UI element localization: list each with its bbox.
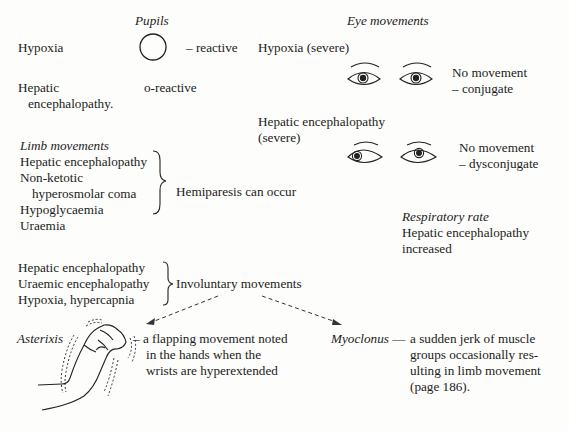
- pupils-label-large: – reactive: [186, 40, 238, 55]
- pupils-condition-hepatic-1: Hepatic: [18, 80, 59, 95]
- limb-condition: hyperosmolar coma: [32, 186, 136, 201]
- pupils-label-small: o-reactive: [144, 80, 197, 95]
- involuntary-brace: [163, 262, 173, 305]
- respiratory-line-2: increased: [402, 241, 452, 256]
- asterixis-desc: wrists are hyperextended: [146, 363, 278, 378]
- eye-condition-hepatic-2: (severe): [258, 130, 300, 145]
- asterixis-desc: in the hands when the: [146, 347, 261, 362]
- eye-condition-hepatic-1: Hepatic encephalopathy: [258, 114, 385, 129]
- eye-label-conjugate-1: No movement: [452, 65, 527, 80]
- asterixis-desc: – a flapping movement noted: [133, 331, 288, 346]
- large-pupil-icon: [140, 34, 166, 60]
- limb-outcome: Hemiparesis can occur: [176, 184, 296, 199]
- limb-condition: Uraemia: [20, 218, 65, 233]
- myoclonus-desc: (page 186).: [410, 379, 470, 394]
- myoclonus-term: Myoclonus: [331, 331, 389, 346]
- pupils-condition-hypoxia: Hypoxia: [18, 40, 63, 55]
- eye-label-conjugate-2: – conjugate: [452, 81, 513, 96]
- eye-label-dysconjugate-1: No movement: [459, 140, 534, 155]
- eye-condition-hypoxia: Hypoxia (severe): [258, 40, 349, 55]
- involuntary-condition: Hepatic encephalopathy: [18, 260, 145, 275]
- eyes-dysconjugate-icon: [348, 142, 436, 163]
- limb-condition: Hepatic encephalopathy: [20, 154, 147, 169]
- myoclonus-desc: ulting in limb movement: [410, 363, 541, 378]
- limb-condition: Non-ketotic: [20, 170, 83, 185]
- pupils-heading: Pupils: [135, 13, 169, 28]
- limb-condition: Hypoglycaemia: [20, 202, 104, 217]
- arrow-to-myoclonus: [262, 296, 342, 325]
- limb-brace: [153, 151, 166, 214]
- myoclonus-desc: a sudden jerk of muscle: [410, 331, 535, 346]
- myoclonus-desc: groups occasionally res-: [410, 347, 538, 362]
- involuntary-condition: Uraemic encephalopathy: [18, 276, 149, 291]
- involuntary-outcome: Involuntary movements: [176, 276, 302, 291]
- eye-label-dysconjugate-2: – dysconjugate: [459, 156, 538, 171]
- involuntary-condition: Hypoxia, hypercapnia: [18, 292, 134, 307]
- myoclonus-term-row: Myoclonus —: [331, 331, 405, 346]
- respiratory-line-1: Hepatic encephalopathy: [402, 225, 529, 240]
- pupils-condition-hepatic-2: encephalopathy.: [28, 96, 113, 111]
- myoclonus-dash: —: [392, 331, 405, 346]
- eye-movements-heading: Eye movements: [347, 13, 429, 28]
- eyes-conjugate-icon: [348, 63, 432, 85]
- arrow-to-asterixis: [146, 296, 218, 325]
- asterixis-term: Asterixis: [17, 331, 63, 346]
- respiratory-heading: Respiratory rate: [402, 209, 489, 224]
- limb-movements-heading: Limb movements: [20, 138, 109, 153]
